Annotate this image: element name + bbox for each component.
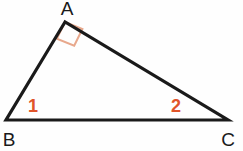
triangle-outline	[6, 22, 228, 120]
vertex-label-c: C	[221, 129, 235, 150]
vertex-label-a: A	[61, 0, 74, 19]
vertex-label-b: B	[3, 129, 16, 150]
angle-label-1: 1	[28, 96, 38, 116]
triangle-figure: A B C 1 2	[0, 0, 243, 151]
triangle-diagram-canvas: A B C 1 2	[0, 0, 243, 151]
angle-label-2: 2	[171, 96, 181, 116]
